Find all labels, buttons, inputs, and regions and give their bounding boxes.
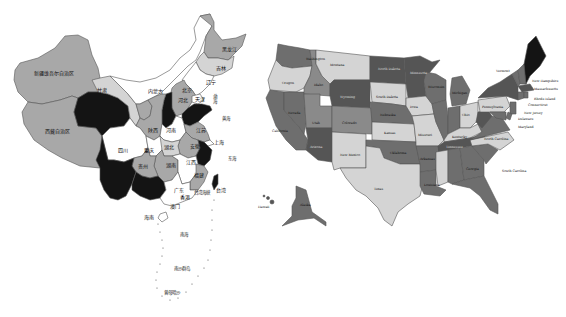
label-guangdong: 广东 [174,187,184,194]
label-TX: Texas [374,187,383,191]
label-beijing: 北京 [182,87,192,94]
label-tianjin: 天津 [195,96,205,103]
label-OH: Ohio [462,113,470,117]
label-GA: Georgia [466,167,479,171]
state-CO[interactable] [332,106,372,134]
label-HI: Hawaii [258,205,269,209]
state-NJ[interactable] [510,102,516,114]
state-RI[interactable] [524,92,528,98]
label-NJ-callout: New Jersey [524,111,543,115]
label-hubei: 湖北 [164,144,174,151]
label-RI-callout: Rhode Island [534,97,555,101]
label-NV: Nevada [288,111,300,115]
label-xinjiang: 新疆维吾尔自治区 [34,70,74,77]
region-heilongjiang[interactable] [200,14,246,60]
sea-label-nansha: 南沙群岛 [174,265,191,272]
label-guizhou: 贵州 [138,163,148,170]
label-MT: Montana [330,63,344,67]
label-hongkong: 香港 [180,194,190,201]
label-OK: Oklahoma [390,151,406,155]
sea-label-donghai: 东海 [228,155,237,162]
label-IA: Iowa [410,105,418,109]
label-SC-callout: South Carolina [502,169,526,173]
label-liaoning: 辽宁 [206,79,216,86]
state-CT[interactable] [518,92,524,100]
region-hainan[interactable] [158,212,168,222]
label-KS: Kansas [384,131,396,135]
label-shaanxi: 陕西 [148,127,158,134]
label-heilongjiang: 黑龙江 [222,46,237,53]
sea-label-taiwan-strait: 台湾海峡 [194,189,211,196]
label-AK: Alaska [299,203,311,207]
label-DE-callout: Delaware [518,117,534,121]
sea-label-nanhai: 南海 [180,231,189,238]
label-NM: New Mexico [340,153,360,157]
state-FL[interactable] [452,176,498,214]
state-MA[interactable] [518,84,534,92]
label-ID: Idaho [314,83,323,87]
label-MD-callout: Maryland [518,125,534,129]
label-KY: Kentucky [452,135,467,139]
label-OR: Oregon [282,81,294,85]
label-neimenggu: 内蒙古 [148,88,163,95]
label-WI: Wisconsin [428,85,444,89]
label-CA: California [272,129,288,133]
label-hainan: 海南 [144,214,154,221]
label-shanghai: 上海 [214,139,224,146]
sea-label-huanghai: 黄海 [222,115,231,122]
state-HI[interactable] [263,195,274,204]
label-anhui: 安徽 [190,143,200,150]
label-CO: Colorado [342,121,357,125]
label-jilin: 吉林 [216,65,226,72]
state-ME[interactable] [524,36,546,84]
label-NC: North Carolina [484,137,508,141]
label-LA: Louisiana [424,183,440,187]
label-MO: Missouri [418,133,432,137]
label-taiwan: 台湾 [216,187,226,194]
label-AZ: Arizona [309,145,322,149]
label-MN: Minnesota [410,71,427,75]
nine-dash-line [155,191,218,300]
label-UT: Utah [312,121,320,125]
sea-label-zengmu: 曾母暗沙 [164,289,181,296]
us-map: Washington Oregon California Nevada Idah… [258,36,558,226]
china-map: 新疆维吾尔自治区 西藏自治区 甘肃 内蒙古 黑龙江 吉林 辽宁 北京 天津 河北… [14,14,246,301]
maps-canvas: 新疆维吾尔自治区 西藏自治区 甘肃 内蒙古 黑龙江 吉林 辽宁 北京 天津 河北… [0,0,566,317]
label-WA: Washington [306,57,325,61]
label-henan: 河南 [166,127,176,133]
label-jiangsu: 江苏 [196,127,206,134]
label-fujian: 福建 [194,172,204,179]
label-chongqing: 重庆 [144,147,154,154]
label-CT-callout: Connecticut [528,103,548,107]
label-sichuan: 四川 [118,147,128,153]
state-MS[interactable] [436,150,448,186]
label-ND: North Dakota [378,67,400,71]
label-MI: Michigan [452,91,467,95]
label-WY: Wyoming [340,95,355,99]
label-PA: Pennsylvania [482,105,503,109]
label-VT-callout: Vermont [495,69,510,73]
state-NM[interactable] [332,132,366,170]
state-NY[interactable] [478,74,518,100]
state-WY[interactable] [330,80,370,108]
label-hebei: 河北 [178,97,188,104]
label-macau: 澳门 [170,203,180,210]
label-SD: South Dakota [376,95,398,99]
label-xizang: 西藏自治区 [45,128,70,135]
label-MA-callout: Massachusetts [534,87,558,91]
label-NH-callout: New Hampshire [532,79,558,83]
label-jiangxi: 江西 [186,159,196,166]
label-TN: Tennessee [446,145,463,149]
label-NE: Nebraska [380,113,396,117]
label-gansu: 甘肃 [97,87,107,94]
sea-label-bohai: 渤海 [212,93,217,105]
state-WA[interactable] [276,44,312,68]
label-AR: Arkansas [419,157,435,161]
state-PA[interactable] [478,96,510,112]
label-hunan: 湖南 [166,162,176,169]
